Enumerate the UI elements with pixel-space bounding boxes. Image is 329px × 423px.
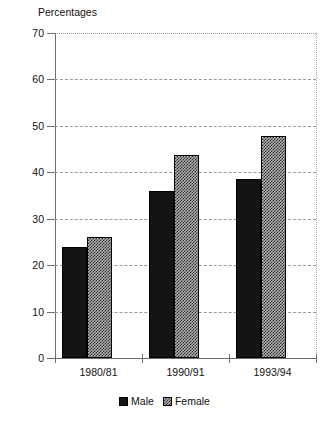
bar-male-1990-91: [149, 191, 174, 358]
x-axis-line: [55, 358, 317, 359]
x-tick-label-1980-81: 1980/81: [55, 366, 142, 378]
x-tick-separator: [229, 354, 230, 363]
legend-label-female: Female: [175, 396, 210, 407]
plot-area: [55, 33, 316, 358]
bar-female-1980-81: [87, 237, 112, 358]
y-tick-60: [47, 79, 55, 80]
legend-entry-male[interactable]: Male: [119, 396, 154, 407]
chart-legend: MaleFemale: [0, 396, 329, 407]
y-tick-30: [47, 219, 55, 220]
y-tick-0: [47, 358, 55, 359]
y-tick-label: 40: [2, 167, 44, 177]
bar-male-1980-81: [62, 247, 87, 358]
legend-swatch-male-icon: [119, 397, 128, 406]
y-tick-label: 20: [2, 260, 44, 270]
y-tick-label: 30: [2, 214, 44, 224]
x-tick-separator: [142, 354, 143, 363]
y-tick-label-wrap: 20: [0, 260, 44, 270]
y-tick-label-wrap: 50: [0, 121, 44, 131]
legend-label-male: Male: [131, 396, 154, 407]
y-tick-label-wrap: 30: [0, 214, 44, 224]
y-tick-50: [47, 126, 55, 127]
bar-male-1993-94: [236, 179, 261, 358]
bar-female-1990-91: [174, 155, 199, 358]
legend-entry-female[interactable]: Female: [163, 396, 210, 407]
x-tick-label-1990-91: 1990/91: [142, 366, 229, 378]
x-tick-end-1: [316, 354, 317, 363]
y-tick-70: [47, 33, 55, 34]
y-tick-label: 60: [2, 74, 44, 84]
y-tick-10: [47, 312, 55, 313]
y-tick-40: [47, 172, 55, 173]
bar-chart: Percentages 010203040506070 1980/811990/…: [0, 0, 329, 423]
y-tick-label: 70: [2, 28, 44, 38]
y-tick-label: 0: [2, 353, 44, 363]
gridline-60: [55, 79, 316, 80]
y-tick-label-wrap: 40: [0, 167, 44, 177]
gridline-50: [55, 126, 316, 127]
gridline-70: [55, 33, 316, 34]
y-tick-label-wrap: 10: [0, 307, 44, 317]
y-tick-label: 10: [2, 307, 44, 317]
plot-right-border: [316, 33, 317, 359]
y-tick-20: [47, 265, 55, 266]
y-tick-label-wrap: 60: [0, 74, 44, 84]
y-tick-label: 50: [2, 121, 44, 131]
chart-title: Percentages: [38, 6, 97, 18]
y-tick-label-wrap: 0: [0, 353, 44, 363]
legend-swatch-female-icon: [163, 397, 172, 406]
x-tick-end-0: [55, 354, 56, 363]
bar-female-1993-94: [261, 136, 286, 358]
y-tick-label-wrap: 70: [0, 28, 44, 38]
x-tick-label-1993-94: 1993/94: [229, 366, 316, 378]
